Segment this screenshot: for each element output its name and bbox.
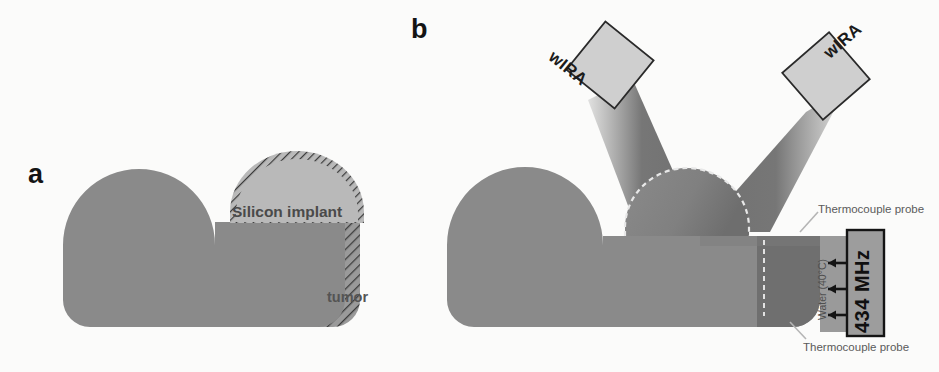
applicator-label: 434 MHz <box>851 249 874 333</box>
silicon-implant-label: Silicon implant <box>232 203 342 221</box>
panel-a-graphic <box>63 151 364 327</box>
panel-label-a: a <box>28 159 43 190</box>
coupling-shadow <box>757 236 820 327</box>
water-label: Water (40°C) <box>816 259 828 320</box>
panel-label-b: b <box>411 14 427 45</box>
thermocouple-leader-top <box>800 212 818 232</box>
figure-container: a b Silicon implant tumor wIRA wIRA 434 … <box>0 0 939 372</box>
surface-shade <box>700 236 820 246</box>
figure-svg <box>0 0 939 372</box>
thermocouple-top-label: Thermocouple probe <box>818 203 924 215</box>
thermocouple-bottom-label: Thermocouple probe <box>803 341 909 353</box>
tumor-label: tumor <box>327 289 368 305</box>
